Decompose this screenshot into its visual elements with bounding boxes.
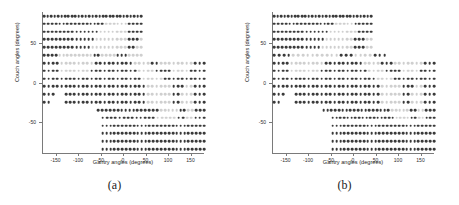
data-point — [133, 148, 136, 151]
data-point — [305, 46, 308, 49]
data-point — [409, 132, 412, 135]
data-point — [321, 30, 324, 33]
data-point — [354, 54, 357, 57]
data-point — [111, 30, 114, 33]
data-point — [116, 109, 119, 112]
data-point — [428, 101, 431, 104]
data-point — [420, 62, 423, 65]
data-point — [343, 140, 346, 143]
x-tick-a-0 — [56, 153, 57, 156]
data-point — [424, 62, 427, 65]
data-point — [144, 116, 147, 119]
data-point — [347, 148, 350, 151]
data-point — [378, 132, 381, 135]
data-point — [327, 22, 330, 25]
data-point — [420, 85, 423, 88]
data-point — [309, 46, 312, 49]
data-point — [185, 93, 188, 96]
data-point — [333, 101, 336, 104]
data-point — [372, 93, 375, 96]
data-point — [187, 132, 190, 135]
data-point — [297, 30, 300, 33]
data-point — [303, 93, 306, 96]
data-point — [389, 77, 392, 80]
data-point — [407, 85, 410, 88]
data-point — [368, 109, 371, 112]
data-point — [382, 132, 385, 135]
data-point — [136, 15, 139, 18]
data-point — [286, 85, 289, 88]
data-point — [273, 54, 276, 57]
data-point — [98, 15, 101, 18]
data-point — [421, 148, 424, 151]
data-point — [95, 30, 98, 33]
data-point — [420, 77, 423, 80]
data-point — [142, 101, 145, 104]
data-point — [315, 22, 318, 25]
data-point — [86, 85, 89, 88]
data-point — [125, 69, 128, 72]
data-point — [342, 62, 345, 65]
data-point — [172, 124, 175, 127]
data-point — [199, 132, 202, 135]
data-point — [346, 77, 349, 80]
data-point — [97, 109, 100, 112]
data-point — [325, 93, 328, 96]
data-point — [339, 15, 342, 18]
data-point — [129, 124, 132, 127]
data-point — [82, 62, 85, 65]
data-point — [433, 85, 436, 88]
data-point — [282, 85, 285, 88]
data-point — [339, 124, 342, 127]
data-point — [82, 77, 85, 80]
data-point — [433, 69, 436, 72]
data-point — [77, 15, 80, 18]
data-point — [82, 85, 85, 88]
data-point — [290, 69, 293, 72]
data-point — [103, 46, 106, 49]
data-point — [280, 15, 283, 18]
data-point — [108, 62, 111, 65]
data-point — [286, 69, 289, 72]
data-point — [424, 85, 427, 88]
data-point — [105, 109, 108, 112]
y-tick-label-b-1: 0 — [263, 80, 266, 86]
data-point — [361, 116, 364, 119]
data-point — [355, 124, 358, 127]
data-point — [377, 69, 380, 72]
data-point — [402, 77, 405, 80]
data-point — [156, 148, 159, 151]
data-point — [105, 140, 108, 143]
data-point — [372, 85, 375, 88]
data-point — [394, 132, 397, 135]
data-point — [287, 15, 290, 18]
data-point — [160, 116, 163, 119]
data-point — [302, 54, 305, 57]
data-point — [362, 22, 365, 25]
data-point — [351, 140, 354, 143]
data-point — [425, 116, 428, 119]
data-point — [89, 54, 92, 57]
data-point — [351, 93, 354, 96]
data-point — [60, 62, 63, 65]
data-point — [203, 148, 206, 151]
data-point — [306, 54, 309, 57]
data-point — [424, 77, 427, 80]
data-point — [281, 38, 284, 41]
data-point — [194, 93, 197, 96]
data-point — [277, 85, 280, 88]
data-point — [311, 15, 314, 18]
data-point — [355, 69, 358, 72]
data-point — [369, 54, 372, 57]
data-point — [179, 132, 182, 135]
data-point — [407, 77, 410, 80]
data-point — [199, 148, 202, 151]
x-tick-a-5 — [168, 153, 169, 156]
data-point — [47, 77, 50, 80]
data-point — [333, 30, 336, 33]
data-point — [132, 30, 135, 33]
data-point — [297, 38, 300, 41]
data-point — [74, 15, 77, 18]
data-point — [101, 109, 104, 112]
data-point — [140, 38, 143, 41]
